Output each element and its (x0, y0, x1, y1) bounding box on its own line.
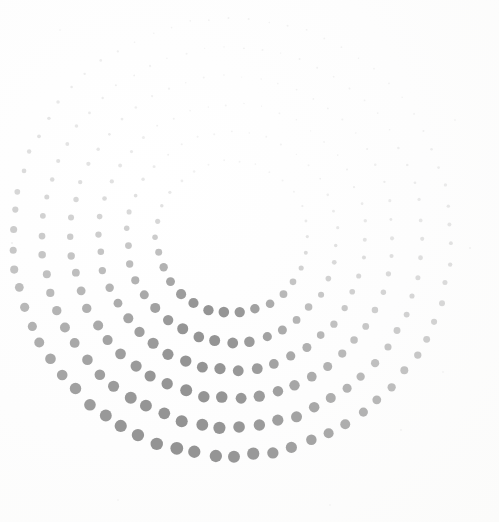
halftone-dot (254, 419, 265, 430)
halftone-dot (152, 235, 158, 241)
halftone-dot (103, 335, 113, 345)
halftone-dot (404, 312, 410, 318)
halftone-dot (302, 343, 311, 352)
halftone-dot (388, 199, 391, 202)
halftone-dot (93, 321, 103, 331)
halftone-dot (364, 99, 366, 101)
halftone-dot (168, 88, 170, 90)
halftone-dot (95, 370, 106, 381)
halftone-dot (419, 219, 423, 223)
halftone-dot (114, 299, 123, 308)
halftone-dot (155, 249, 162, 256)
halftone-dot (400, 366, 408, 374)
halftone-dot (423, 336, 430, 343)
halftone-dot (145, 370, 156, 381)
halftone-dot (176, 289, 186, 299)
halftone-dot (233, 365, 244, 376)
halftone-dot (173, 118, 175, 120)
halftone-dot (269, 22, 270, 23)
halftone-dot (323, 362, 332, 371)
halftone-dot (223, 46, 224, 47)
halftone-dot (99, 59, 102, 62)
halftone-dot (263, 332, 272, 341)
halftone-dot (68, 214, 74, 220)
halftone-dot (444, 183, 447, 186)
halftone-dot (332, 260, 337, 265)
halftone-dot (151, 438, 163, 450)
halftone-dot (415, 275, 420, 280)
halftone-dot (390, 236, 394, 240)
halftone-dot (357, 373, 365, 381)
halftone-dot (70, 338, 80, 348)
halftone-dot (115, 349, 126, 360)
halftone-dot (135, 106, 138, 109)
halftone-dot (261, 106, 262, 107)
halftone-dot (68, 252, 75, 259)
halftone-dot (244, 336, 255, 347)
halftone-dot (361, 202, 364, 205)
halftone-dot (371, 359, 379, 367)
halftone-dot (216, 391, 228, 403)
halftone-dot (176, 415, 188, 427)
halftone-dot (96, 148, 100, 152)
halftone-dot (225, 104, 227, 106)
halftone-dot (305, 303, 313, 311)
halftone-dot (134, 194, 138, 198)
halftone-dot (389, 129, 391, 131)
halftone-dot (60, 323, 70, 333)
halftone-dot (134, 41, 136, 43)
halftone-dot (167, 154, 169, 156)
halftone-dot (83, 73, 85, 75)
halftone-dot (88, 112, 91, 115)
halftone-dot (188, 298, 198, 308)
halftone-dot (235, 307, 245, 317)
halftone-dot (406, 164, 409, 167)
halftone-dot (401, 97, 402, 98)
halftone-dot (177, 323, 188, 334)
halftone-dot (337, 154, 339, 156)
halftone-dot (227, 338, 238, 349)
halftone-dot (228, 451, 240, 463)
halftone-dot (95, 231, 101, 237)
halftone-dot (127, 209, 132, 214)
halftone-dot (414, 181, 417, 184)
halftone-dot (14, 189, 20, 195)
halftone-dot (156, 125, 158, 127)
halftone-dot (247, 448, 259, 460)
halftone-dot (448, 262, 452, 266)
halftone-dot (280, 53, 281, 54)
halftone-dot (304, 220, 307, 223)
halftone-dot (15, 283, 24, 292)
halftone-dot (397, 147, 400, 150)
halftone-dot (196, 419, 208, 431)
halftone-dot (272, 415, 283, 426)
halftone-dot (105, 284, 113, 292)
halftone-dot (414, 351, 421, 358)
halftone-dot (336, 226, 339, 229)
halftone-dot (282, 180, 284, 182)
halftone-dot (252, 363, 263, 374)
halftone-dot (324, 428, 334, 438)
halftone-dot (333, 76, 335, 78)
halftone-dot (141, 177, 144, 180)
halftone-dot (299, 265, 304, 270)
halftone-dot (358, 57, 360, 59)
halftone-dot (342, 305, 348, 311)
halftone-dot (110, 179, 114, 183)
halftone-dot (133, 75, 135, 77)
halftone-dot (70, 383, 81, 394)
halftone-dot (163, 315, 173, 325)
halftone-dot (67, 234, 73, 240)
halftone-dot (208, 106, 210, 108)
halftone-dot (22, 169, 27, 174)
halftone-dot (308, 164, 310, 166)
halftone-dot (286, 351, 295, 360)
halftone-dot (70, 86, 73, 89)
halftone-dot (99, 267, 106, 274)
halftone-dot (277, 83, 279, 85)
halftone-dot (273, 386, 283, 396)
halftone-dot (203, 305, 213, 315)
halftone-dot (332, 210, 335, 213)
halftone-dot (84, 399, 96, 411)
halftone-dot (10, 266, 18, 274)
